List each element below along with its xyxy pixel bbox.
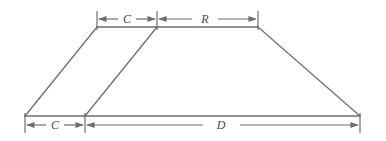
diagram-canvas: C R C D xyxy=(0,0,386,141)
dimension-bottom-d-label: D xyxy=(216,118,226,132)
trapezoid-left-slope xyxy=(25,27,97,116)
dimension-diagram: C R C D xyxy=(0,0,386,141)
dimension-top-c-label: C xyxy=(123,12,132,26)
dimension-top-c: C xyxy=(99,12,155,26)
dimension-bottom-d: D xyxy=(87,118,358,132)
dimension-bottom-c: C xyxy=(27,118,83,132)
dimension-top-r: R xyxy=(159,12,256,26)
dimension-bottom-c-label: C xyxy=(51,118,60,132)
interior-slope-line xyxy=(85,27,157,116)
dimension-top-r-label: R xyxy=(200,12,209,26)
trapezoid-outline xyxy=(25,27,360,116)
trapezoid-right-slope xyxy=(258,27,360,116)
